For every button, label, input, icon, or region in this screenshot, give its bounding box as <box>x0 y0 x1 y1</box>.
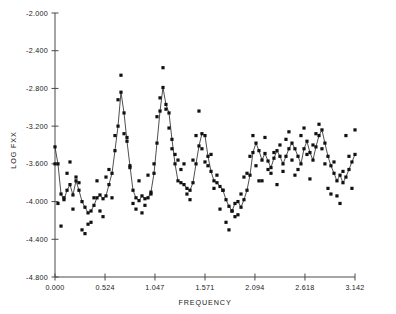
data-point <box>320 147 323 150</box>
data-point <box>131 189 134 192</box>
data-point <box>203 134 206 137</box>
data-point <box>284 138 287 141</box>
data-point <box>251 134 254 137</box>
data-point <box>134 208 137 211</box>
data-point <box>134 196 137 199</box>
data-point <box>305 140 308 143</box>
data-point <box>236 200 239 203</box>
y-tick-label: -4.400 <box>26 235 48 244</box>
data-point <box>218 208 221 211</box>
data-point <box>344 175 347 178</box>
data-point <box>221 189 224 192</box>
data-point <box>137 199 140 202</box>
data-point <box>191 181 194 184</box>
y-tick-label: -2.000 <box>26 9 48 18</box>
data-point <box>116 125 119 128</box>
data-point <box>275 149 278 152</box>
data-point <box>317 123 320 126</box>
y-tick-label: -3.600 <box>26 159 48 168</box>
data-point <box>194 162 197 165</box>
data-point <box>212 187 215 190</box>
data-point <box>341 181 344 184</box>
data-point <box>152 162 155 165</box>
data-point <box>125 136 128 139</box>
plot-area: -2.000-2.400-2.800-3.200-3.600-4.000-4.4… <box>0 0 396 314</box>
data-point <box>302 126 305 129</box>
data-point <box>155 115 158 118</box>
data-point <box>284 155 287 158</box>
data-series-group <box>53 66 356 235</box>
data-point <box>113 149 116 152</box>
data-point <box>263 136 266 139</box>
data-point <box>146 196 149 199</box>
data-point <box>326 155 329 158</box>
data-point <box>353 128 356 131</box>
data-point <box>59 224 62 227</box>
data-point <box>110 172 113 175</box>
data-point <box>293 174 296 177</box>
data-point <box>326 187 329 190</box>
data-point <box>263 152 266 155</box>
data-point <box>200 147 203 150</box>
data-point <box>347 168 350 171</box>
x-axis-title: FREQUENCY <box>178 298 231 307</box>
data-point <box>266 159 269 162</box>
data-point <box>299 162 302 165</box>
data-point <box>320 128 323 131</box>
data-point <box>239 206 242 209</box>
data-point <box>278 143 281 146</box>
y-axis: -2.000-2.400-2.800-3.200-3.600-4.000-4.4… <box>26 9 58 282</box>
data-point <box>161 86 164 89</box>
data-point <box>185 187 188 190</box>
data-point <box>269 172 272 175</box>
data-point <box>311 158 314 161</box>
data-point <box>245 172 248 175</box>
data-point <box>341 170 344 173</box>
data-point <box>59 192 62 195</box>
data-point <box>299 134 302 137</box>
data-point <box>290 142 293 145</box>
data-point <box>209 153 212 156</box>
data-point <box>206 155 209 158</box>
data-point <box>296 155 299 158</box>
data-point <box>185 192 188 195</box>
data-point <box>338 202 341 205</box>
data-point <box>215 181 218 184</box>
data-point <box>248 155 251 158</box>
data-point <box>332 172 335 175</box>
data-point <box>242 198 245 201</box>
data-point <box>110 196 113 199</box>
data-point <box>98 209 101 212</box>
data-point <box>122 111 125 114</box>
data-point <box>77 189 80 192</box>
data-point <box>212 179 215 182</box>
data-point <box>257 149 260 152</box>
data-point <box>308 151 311 154</box>
y-tick-label: -4.000 <box>26 197 48 206</box>
data-point <box>323 142 326 145</box>
x-tick-label: 3.142 <box>345 283 364 292</box>
data-point <box>92 204 95 207</box>
data-point <box>74 179 77 182</box>
data-point <box>230 209 233 212</box>
data-point <box>143 204 146 207</box>
data-point <box>281 170 284 173</box>
y-tick-label: -2.400 <box>26 46 48 55</box>
data-point <box>137 179 140 182</box>
x-axis: 0.0000.5241.0471.5712.0942.6183.142 <box>45 274 364 293</box>
y-tick-label: -4.800 <box>26 273 48 282</box>
data-point <box>329 192 332 195</box>
data-point <box>236 213 239 216</box>
data-point <box>254 142 257 145</box>
data-point <box>80 228 83 231</box>
data-point <box>95 179 98 182</box>
data-point <box>305 153 308 156</box>
data-point <box>101 215 104 218</box>
x-tick-label: 1.571 <box>195 283 214 292</box>
data-point <box>128 166 131 169</box>
data-point <box>347 155 350 158</box>
data-point <box>116 98 119 101</box>
data-point <box>56 162 59 165</box>
x-tick-label: 2.618 <box>295 283 314 292</box>
data-point <box>188 189 191 192</box>
